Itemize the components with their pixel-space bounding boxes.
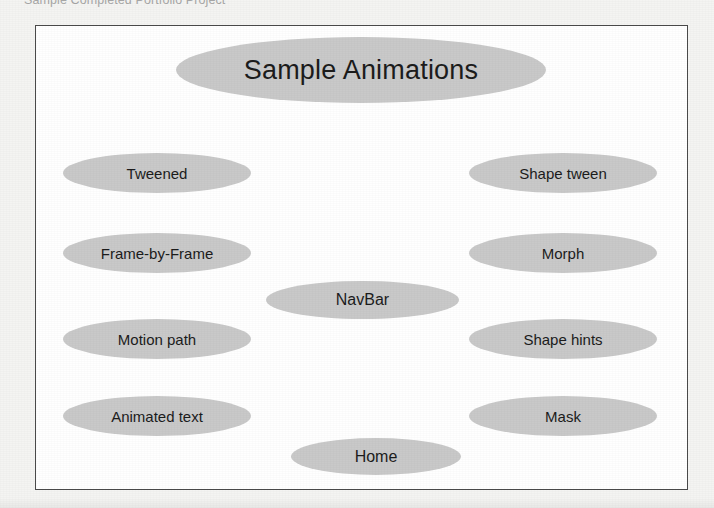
node-mask[interactable]: Mask: [469, 396, 657, 436]
node-motion-path[interactable]: Motion path: [63, 319, 251, 359]
node-morph[interactable]: Morph: [469, 233, 657, 273]
node-label: Tweened: [127, 166, 188, 181]
node-label: Sample Animations: [244, 57, 479, 84]
scan-bottom-shadow: [0, 498, 714, 508]
node-shape-tween[interactable]: Shape tween: [469, 153, 657, 193]
scanned-page-background: Sample Completed Portfolio Project Sampl…: [0, 0, 714, 508]
node-tweened[interactable]: Tweened: [63, 153, 251, 193]
node-animated-text[interactable]: Animated text: [63, 396, 251, 436]
node-shape-hints[interactable]: Shape hints: [469, 319, 657, 359]
node-label: NavBar: [336, 292, 389, 308]
node-label: Shape tween: [519, 166, 607, 181]
diagram-canvas: Sample Animations Tweened Frame-by-Frame…: [35, 25, 688, 490]
figure-caption: Sample Completed Portfolio Project: [24, 0, 444, 9]
node-label: Motion path: [118, 332, 196, 347]
node-label: Home: [355, 449, 398, 465]
node-label: Shape hints: [523, 332, 602, 347]
node-label: Morph: [542, 246, 585, 261]
node-sample-animations[interactable]: Sample Animations: [176, 37, 546, 103]
node-home[interactable]: Home: [291, 438, 461, 475]
node-label: Frame-by-Frame: [101, 246, 214, 261]
node-frame-by-frame[interactable]: Frame-by-Frame: [63, 233, 251, 273]
node-label: Mask: [545, 409, 581, 424]
node-navbar[interactable]: NavBar: [266, 281, 459, 319]
node-label: Animated text: [111, 409, 203, 424]
